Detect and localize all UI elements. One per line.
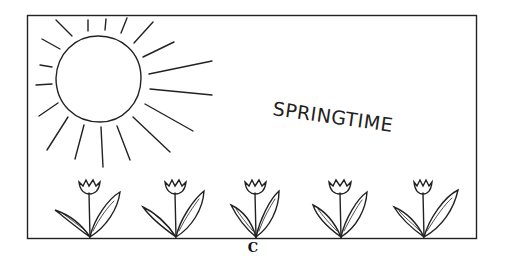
springtime-title: SPRINGTIME	[271, 97, 394, 136]
springtime-illustration: SPRINGTIME	[0, 0, 506, 263]
sun-icon	[36, 18, 212, 167]
tulip-icon-1	[55, 180, 120, 237]
tulip-icon-3	[231, 180, 279, 237]
picture-frame	[28, 16, 477, 239]
tulip-icon-4	[313, 180, 367, 237]
tulip-icon-5	[394, 180, 458, 237]
figure-caption-label: C	[0, 240, 506, 255]
tulip-icon-2	[143, 180, 204, 237]
